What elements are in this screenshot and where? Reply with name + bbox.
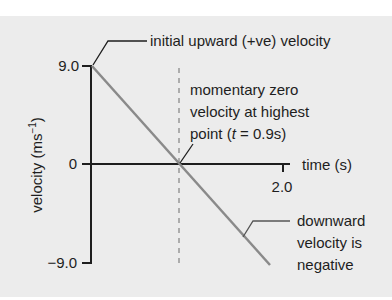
velocity-time-chart: 9.0 0 −9.0 2.0 time (s) velocity (ms−1) …: [0, 0, 392, 300]
annotation-downward-line1: downward: [297, 212, 365, 229]
annotation-zero-line1: momentary zero: [190, 81, 298, 98]
downward-velocity-leader: [243, 221, 290, 237]
x-axis-label: time (s): [302, 156, 352, 173]
initial-velocity-leader: [93, 41, 147, 65]
annotation-zero-line2: velocity at highest: [190, 103, 310, 120]
y-tick-label-zero: 0: [69, 155, 77, 172]
annotation-downward-line3: negative: [297, 256, 354, 273]
x-tick-label-end: 2.0: [272, 178, 293, 195]
y-tick-label-top: 9.0: [58, 57, 79, 74]
annotation-initial-velocity: initial upward (+ve) velocity: [150, 32, 331, 49]
y-axis-label: velocity (ms−1): [27, 117, 45, 213]
zero-velocity-leader: [180, 144, 193, 163]
annotation-zero-line3: point (t = 0.9s): [190, 125, 286, 142]
y-tick-label-bottom: −9.0: [47, 254, 77, 271]
annotation-downward-line2: velocity is: [297, 234, 362, 251]
